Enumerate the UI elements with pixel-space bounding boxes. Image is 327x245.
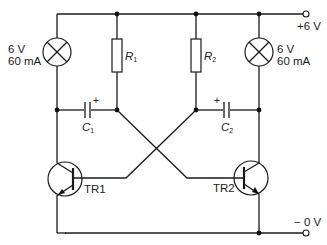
circuit-schematic [0, 0, 327, 245]
capacitor-c2-label: C2 [221, 121, 233, 137]
lamp-right-icon [245, 38, 273, 66]
capacitor-c2-icon [224, 102, 229, 118]
circuit-diagram: 6 V 60 mA 6 V 60 mA +6 V − 0 V R1 R2 C1 … [0, 0, 327, 245]
resistor-r1-label: R1 [125, 50, 137, 66]
node-dot [194, 12, 199, 17]
positive-terminal [303, 11, 309, 17]
node-dot [257, 12, 262, 17]
negative-terminal [303, 230, 309, 236]
resistor-r2-icon [191, 39, 201, 72]
resistor-r2-label: R2 [204, 50, 216, 66]
transistor-tr1-label: TR1 [84, 183, 106, 195]
lamp-left-voltage: 6 V [8, 43, 25, 55]
negative-supply-label: − 0 V [294, 216, 321, 228]
capacitor-c2-polarity: + [214, 95, 220, 107]
node-dot [257, 108, 262, 113]
node-dot [115, 108, 120, 113]
lamp-left-current: 60 mA [8, 55, 41, 67]
capacitor-c1-icon [85, 102, 90, 118]
capacitor-c1-polarity: + [93, 95, 99, 107]
node-dot [115, 12, 120, 17]
lamp-right-voltage: 6 V [277, 43, 294, 55]
lamp-right-current: 60 mA [277, 55, 310, 67]
capacitor-c1-label: C1 [82, 121, 94, 137]
node-dot [257, 231, 262, 236]
resistor-r1-icon [112, 39, 122, 72]
transistor-tr1-icon [48, 162, 82, 196]
transistor-tr2-label: TR2 [213, 182, 235, 194]
node-dot [194, 108, 199, 113]
lamp-left-icon [43, 38, 71, 66]
node-dot [55, 108, 60, 113]
positive-supply-label: +6 V [297, 20, 321, 32]
